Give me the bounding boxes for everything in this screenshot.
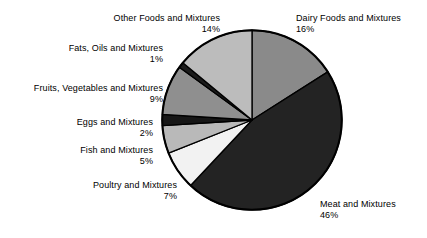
- pie-label-fats-oils-and-mixtures: Fats, Oils and Mixtures 1%: [38, 43, 163, 65]
- pie-label-name: Fruits, Vegetables and Mixtures: [4, 83, 163, 94]
- pie-label-percent: 14%: [88, 24, 220, 35]
- pie-label-eggs-and-mixtures: Eggs and Mixtures 2%: [48, 117, 153, 139]
- pie-label-name: Fats, Oils and Mixtures: [38, 43, 163, 54]
- pie-label-name: Other Foods and Mixtures: [88, 13, 220, 24]
- pie-chart: Other Foods and Mixtures 14% Dairy Foods…: [0, 0, 427, 238]
- pie-label-percent: 2%: [48, 128, 153, 139]
- pie-label-name: Poultry and Mixtures: [60, 180, 177, 191]
- pie-label-percent: 46%: [320, 210, 425, 221]
- pie-label-name: Fish and Mixtures: [58, 145, 153, 156]
- pie-label-poultry-and-mixtures: Poultry and Mixtures 7%: [60, 180, 177, 202]
- pie-label-name: Meat and Mixtures: [320, 199, 425, 210]
- pie-label-percent: 5%: [58, 156, 153, 167]
- pie-label-fruits-vegetables-and-mixtures: Fruits, Vegetables and Mixtures 9%: [4, 83, 163, 105]
- pie-label-percent: 9%: [4, 94, 163, 105]
- pie-chart-canvas: [158, 26, 346, 214]
- pie-label-name: Eggs and Mixtures: [48, 117, 153, 128]
- pie-label-name: Dairy Foods and Mixtures: [296, 13, 426, 24]
- pie-label-percent: 16%: [296, 24, 426, 35]
- pie-label-fish-and-mixtures: Fish and Mixtures 5%: [58, 145, 153, 167]
- pie-label-other-foods-and-mixtures: Other Foods and Mixtures 14%: [88, 13, 220, 35]
- pie-label-dairy-foods-and-mixtures: Dairy Foods and Mixtures 16%: [296, 13, 426, 35]
- pie-label-percent: 7%: [60, 191, 177, 202]
- pie-label-meat-and-mixtures: Meat and Mixtures 46%: [320, 199, 425, 221]
- pie-label-percent: 1%: [38, 54, 163, 65]
